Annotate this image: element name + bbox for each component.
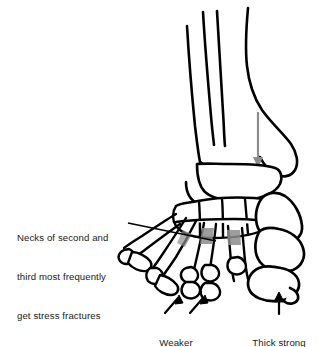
- weaker-metacarpals-label: Weaker metacarpals: [133, 310, 219, 347]
- neck-shade-second: [227, 230, 241, 245]
- thick-label-line1: Thick strong: [236, 336, 322, 347]
- anatomy-figure: Necks of second and third most frequentl…: [0, 0, 322, 347]
- neck-shade-third: [200, 228, 214, 244]
- phalanx-toe3-middle: [181, 267, 198, 283]
- first-ray-great-toe: [248, 193, 304, 304]
- weaker-label-line1: Weaker: [133, 336, 219, 347]
- phalanx-toe2-middle: [201, 265, 219, 281]
- necks-label-line1: Necks of second and: [17, 231, 109, 244]
- necks-stress-fracture-label: Necks of second and third most frequentl…: [17, 205, 109, 347]
- phalanx-toe2-proximal: [227, 257, 245, 274]
- phalanx-toe3-distal: [182, 282, 201, 298]
- necks-label-line2: third most frequently: [17, 270, 109, 283]
- thick-metacarpal-label: Thick strong metacarpal: [236, 310, 322, 347]
- necks-label-line3: get stress fractures: [17, 309, 109, 322]
